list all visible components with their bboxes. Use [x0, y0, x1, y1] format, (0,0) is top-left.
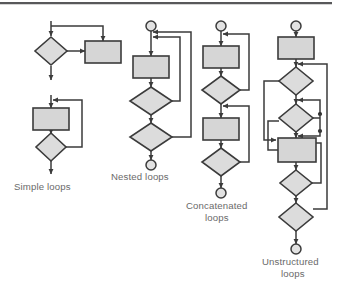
decision-diamond: [36, 133, 66, 161]
process-box-2: [203, 118, 239, 140]
terminal-start: [291, 21, 301, 31]
decision-diamond-3: [280, 170, 312, 196]
decision-outer: [130, 123, 172, 151]
group-nested-loops: Nested loops: [111, 21, 191, 182]
terminal-end: [146, 160, 156, 170]
terminal-start: [146, 21, 156, 31]
simple-while-loop: [35, 21, 121, 80]
terminal-start: [216, 21, 226, 31]
edge-back-mid-lower: [298, 131, 320, 136]
group-simple-loops: Simple loops: [14, 21, 121, 192]
edge-back-top: [51, 26, 103, 41]
simple-repeat-loop: [33, 95, 82, 174]
decision-diamond-1: [279, 67, 313, 95]
process-box: [133, 56, 169, 78]
decision-diamond-2: [202, 148, 240, 176]
figure-canvas: Simple loops Nested loops: [0, 0, 338, 290]
caption-concatenated-loops-line2: loops: [205, 212, 229, 223]
process-box-1: [278, 37, 314, 59]
edge-outer-back: [153, 32, 191, 137]
decision-diamond: [35, 37, 67, 65]
process-box: [85, 41, 121, 63]
decision-inner: [130, 87, 172, 115]
process-box-1: [203, 46, 239, 68]
process-box-2: [278, 138, 316, 162]
caption-concatenated-loops-line1: Concatenated: [186, 200, 248, 211]
decision-diamond-2: [279, 104, 313, 132]
caption-unstructured-loops-line2: loops: [281, 268, 305, 279]
edge-left-forward-jump: [264, 81, 279, 140]
terminal-end: [291, 244, 301, 254]
caption-nested-loops: Nested loops: [111, 171, 169, 182]
terminal-end: [216, 188, 226, 198]
caption-simple-loops: Simple loops: [14, 181, 71, 192]
process-box: [33, 108, 69, 130]
decision-diamond-4: [279, 203, 313, 231]
group-concatenated-loops: Concatenated loops: [186, 21, 249, 223]
group-unstructured-loops: Unstructured loops: [262, 21, 327, 279]
caption-unstructured-loops-line1: Unstructured: [262, 256, 319, 267]
loop-classes-figure: Simple loops Nested loops: [0, 0, 338, 290]
decision-diamond-1: [202, 76, 240, 104]
